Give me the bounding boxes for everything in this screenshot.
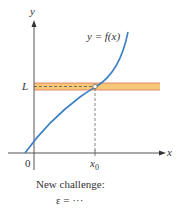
function-curve: [25, 32, 128, 153]
x-axis-arrow-icon: [159, 151, 166, 156]
x-axis-label: x: [167, 146, 172, 158]
y-axis-label: y: [30, 5, 35, 17]
origin-label: 0: [25, 157, 31, 169]
x0-label: x0: [90, 157, 99, 172]
caption-new-challenge: New challenge:: [36, 178, 105, 190]
curve-label: y = f(x): [87, 30, 120, 42]
limit-label: L: [22, 80, 28, 92]
y-axis-arrow-icon: [32, 20, 37, 27]
caption-epsilon: ε = ···: [56, 194, 83, 206]
x0-label-subscript: 0: [95, 163, 99, 172]
limit-point: [93, 84, 97, 88]
